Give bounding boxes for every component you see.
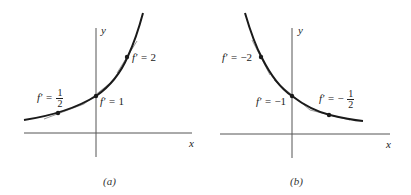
label-a-half: f′ = 1 2 bbox=[37, 88, 63, 109]
x-axis-label-b: x bbox=[386, 139, 391, 150]
label-b-neg1: f′ = −1 bbox=[256, 96, 286, 107]
x-axis-label-a: x bbox=[189, 138, 194, 149]
label-a-two: f′ = 2 bbox=[132, 52, 156, 63]
point-b-neg1 bbox=[290, 94, 294, 98]
point-a-two bbox=[125, 55, 129, 59]
point-a-half bbox=[56, 111, 60, 115]
y-axis-label-b: y bbox=[298, 25, 303, 36]
point-b-neghalf bbox=[327, 113, 331, 117]
fraction: 1 2 bbox=[56, 88, 63, 109]
caption-b: (b) bbox=[290, 175, 303, 187]
label-b-neg2: f′ = −2 bbox=[222, 52, 252, 63]
point-b-neg2 bbox=[259, 55, 263, 59]
y-axis-label-a: y bbox=[101, 25, 106, 36]
label-b-neghalf: f′ = − 1 2 bbox=[319, 89, 354, 110]
point-a-one bbox=[94, 94, 98, 98]
label-a-one: f′ = 1 bbox=[100, 96, 124, 107]
caption-a: (a) bbox=[103, 175, 116, 187]
fraction: 1 2 bbox=[347, 89, 354, 110]
